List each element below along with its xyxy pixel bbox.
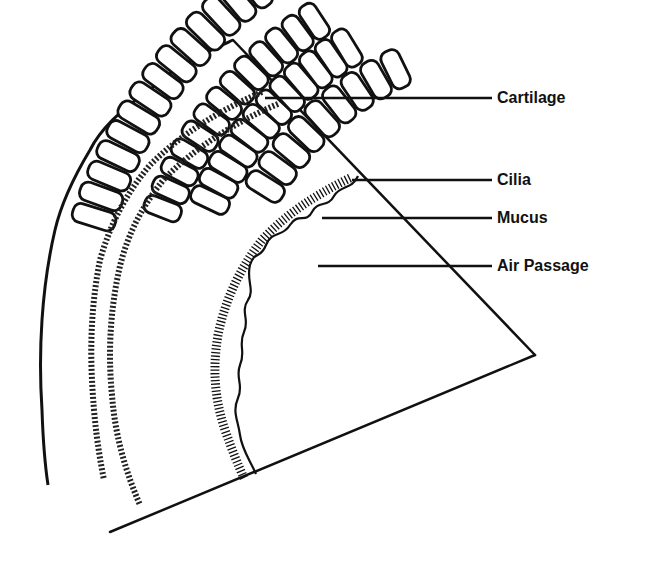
label-mucus: Mucus [497, 210, 548, 226]
label-cartilage: Cartilage [497, 90, 565, 106]
mucus-layer [235, 176, 358, 474]
cilia-layer [215, 178, 350, 478]
label-cilia: Cilia [497, 172, 531, 188]
airway-cross-section-diagram [0, 0, 671, 566]
cell-layers [70, 0, 413, 233]
label-air-passage: Air Passage [497, 258, 589, 274]
